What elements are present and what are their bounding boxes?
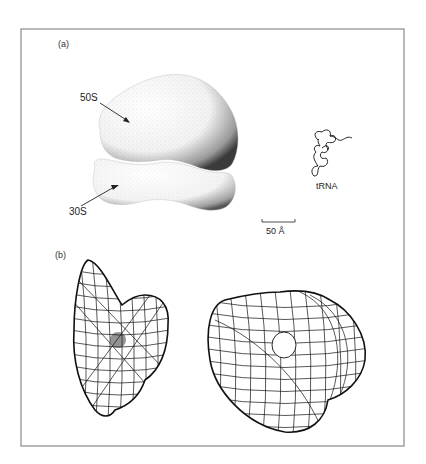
panel-a-label: (a) bbox=[58, 39, 69, 49]
trna-structure-icon bbox=[312, 130, 352, 176]
panel-b: (b) bbox=[55, 250, 370, 435]
central-hole bbox=[272, 332, 296, 358]
label-50s: 50S bbox=[80, 92, 98, 103]
panel-a: (a) 50S 30S tRNA 50 Å bbox=[58, 39, 352, 236]
scale-bar: 50 Å bbox=[262, 219, 295, 236]
scale-bar-label: 50 Å bbox=[266, 226, 285, 236]
label-30s: 30S bbox=[69, 206, 87, 217]
panel-b-label: (b) bbox=[55, 250, 66, 260]
wireframe-view-right bbox=[200, 290, 370, 435]
label-trna: tRNA bbox=[316, 181, 338, 191]
ribosome-figure: (a) 50S 30S tRNA 50 Å bbox=[0, 0, 426, 464]
subunit-50s-shape bbox=[99, 74, 238, 170]
wireframe-view-left bbox=[70, 255, 170, 420]
